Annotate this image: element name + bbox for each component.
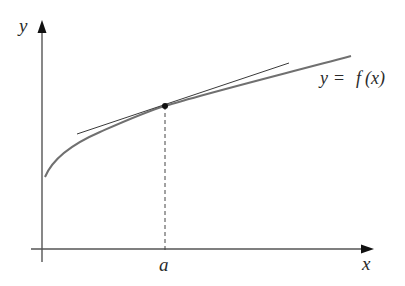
tangent-point — [162, 103, 168, 109]
curve-label: y = f (x) — [318, 68, 385, 89]
x-axis-label: x — [361, 253, 371, 274]
curve-label-f: f — [356, 68, 364, 88]
tangent-line — [77, 63, 289, 134]
point-a-label: a — [159, 254, 169, 275]
y-axis — [38, 20, 47, 262]
curve-label-eq: = — [334, 68, 344, 88]
tangent-diagram: y x a y = f (x) — [0, 0, 405, 286]
x-axis — [31, 245, 374, 254]
curve-f — [45, 56, 351, 177]
curve-label-y: y — [318, 68, 328, 88]
y-axis-label: y — [17, 15, 28, 36]
y-axis-arrow-icon — [38, 20, 47, 33]
curve-label-arg: (x) — [365, 68, 385, 89]
